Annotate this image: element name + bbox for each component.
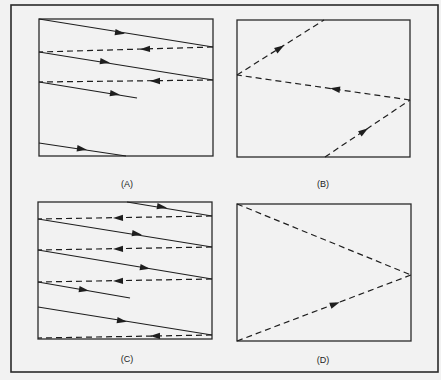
retrace-line (39, 47, 213, 52)
direction-arrow-icon (132, 230, 143, 238)
retrace-line (38, 247, 212, 250)
direction-arrow-icon (274, 43, 286, 54)
direction-arrow-icon (110, 90, 121, 98)
retrace-line (38, 279, 212, 282)
retrace-line (237, 75, 410, 100)
scan-line (39, 52, 213, 80)
panel-frame (237, 20, 410, 157)
retrace-line (38, 335, 212, 338)
retrace-line (237, 275, 411, 341)
panel-d (237, 204, 411, 341)
panel-frame (237, 204, 411, 341)
caption-d: (D) (317, 355, 330, 365)
panel-b (237, 20, 410, 157)
direction-arrow-icon (329, 299, 341, 309)
direction-arrow-icon (140, 46, 150, 53)
scan-line (38, 250, 212, 279)
direction-arrow-icon (79, 286, 90, 294)
direction-arrow-icon (150, 78, 160, 85)
direction-arrow-icon (157, 203, 168, 211)
raster-scan-diagram (0, 0, 441, 380)
direction-arrow-icon (150, 333, 160, 340)
retrace-line (38, 216, 212, 219)
direction-arrow-icon (330, 85, 341, 93)
panel-frame (38, 202, 212, 339)
caption-c: (C) (121, 354, 134, 364)
caption-b: (B) (317, 179, 329, 189)
panel-frame (39, 19, 213, 156)
scan-line (39, 19, 213, 47)
retrace-line (39, 80, 213, 82)
scan-line (38, 219, 212, 247)
outer-frame (11, 5, 438, 372)
direction-arrow-icon (100, 58, 111, 66)
direction-arrow-icon (77, 145, 88, 153)
panel-a (39, 19, 213, 156)
direction-arrow-icon (358, 126, 370, 137)
panel-c (38, 202, 212, 339)
direction-arrow-icon (113, 278, 123, 285)
caption-a: (A) (121, 179, 133, 189)
scan-line (39, 82, 137, 98)
direction-arrow-icon (113, 246, 123, 253)
retrace-line (237, 204, 411, 275)
direction-arrow-icon (113, 215, 123, 222)
scan-line (127, 202, 212, 216)
